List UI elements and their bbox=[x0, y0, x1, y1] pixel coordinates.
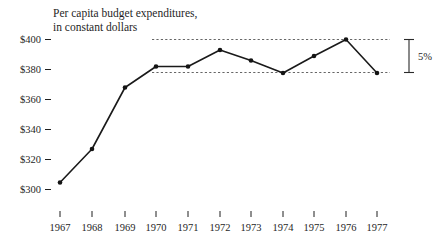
x-axis-tick-label: 1977 bbox=[367, 222, 388, 233]
y-axis-tick-label: $340 bbox=[20, 124, 41, 135]
series-line-per-capita-expenditures bbox=[60, 40, 377, 183]
x-axis-tick-label: 1976 bbox=[336, 222, 357, 233]
x-axis-tick-label: 1969 bbox=[115, 222, 136, 233]
x-axis-tick-1974: 1974 bbox=[273, 211, 295, 233]
y-axis-tick-340: $340 bbox=[20, 124, 51, 135]
data-point bbox=[186, 64, 191, 69]
data-point bbox=[90, 147, 95, 152]
bracket-label: 5% bbox=[418, 51, 432, 62]
y-axis: $400 $380 $360 $340 $320 $300 bbox=[20, 34, 51, 195]
range-bracket-annotation: 5% bbox=[404, 40, 432, 73]
data-point bbox=[344, 37, 349, 42]
data-point bbox=[312, 54, 317, 59]
y-axis-tick-label: $400 bbox=[20, 34, 41, 45]
x-axis-tick-1968: 1968 bbox=[82, 211, 103, 233]
y-axis-tick-label: $360 bbox=[20, 94, 41, 105]
y-axis-tick-label: $320 bbox=[20, 154, 41, 165]
x-axis-tick-label: 1967 bbox=[50, 222, 71, 233]
y-axis-tick-400: $400 bbox=[20, 34, 51, 45]
x-axis-tick-1977: 1977 bbox=[367, 211, 388, 233]
x-axis-tick-1969: 1969 bbox=[115, 211, 136, 233]
data-point bbox=[375, 71, 380, 76]
chart-title-line-1: Per capita budget expenditures, bbox=[53, 7, 197, 20]
x-axis-tick-1970: 1970 bbox=[146, 211, 167, 233]
x-axis-tick-label: 1975 bbox=[304, 222, 325, 233]
x-axis-tick-label: 1971 bbox=[178, 222, 199, 233]
chart-title-line-2: in constant dollars bbox=[53, 21, 138, 33]
chart-container: Per capita budget expenditures, in const… bbox=[0, 0, 441, 243]
y-axis-tick-label: $300 bbox=[20, 184, 41, 195]
data-point bbox=[281, 71, 286, 76]
data-point bbox=[123, 85, 128, 90]
x-axis-tick-label: 1974 bbox=[273, 222, 295, 233]
line-chart: Per capita budget expenditures, in const… bbox=[0, 0, 441, 243]
y-axis-tick-360: $360 bbox=[20, 94, 51, 105]
x-axis-tick-1967: 1967 bbox=[50, 211, 71, 233]
x-axis-tick-1973: 1973 bbox=[241, 211, 262, 233]
y-axis-tick-380: $380 bbox=[20, 64, 51, 75]
x-axis-tick-1976: 1976 bbox=[336, 211, 357, 233]
x-axis-tick-label: 1973 bbox=[241, 222, 262, 233]
x-axis-tick-label: 1968 bbox=[82, 222, 103, 233]
data-point bbox=[58, 180, 63, 185]
series-markers bbox=[58, 37, 380, 185]
data-point bbox=[154, 64, 159, 69]
y-axis-tick-320: $320 bbox=[20, 154, 51, 165]
x-axis: 1967 1968 1969 1970 1971 1972 bbox=[50, 211, 388, 233]
data-point bbox=[249, 58, 254, 63]
x-axis-tick-1972: 1972 bbox=[210, 211, 231, 233]
x-axis-tick-label: 1970 bbox=[146, 222, 167, 233]
chart-title: Per capita budget expenditures, in const… bbox=[53, 7, 197, 33]
y-axis-tick-300: $300 bbox=[20, 184, 51, 195]
x-axis-tick-1975: 1975 bbox=[304, 211, 325, 233]
data-point bbox=[218, 48, 223, 53]
x-axis-tick-1971: 1971 bbox=[178, 211, 199, 233]
y-axis-tick-label: $380 bbox=[20, 64, 41, 75]
x-axis-tick-label: 1972 bbox=[210, 222, 231, 233]
